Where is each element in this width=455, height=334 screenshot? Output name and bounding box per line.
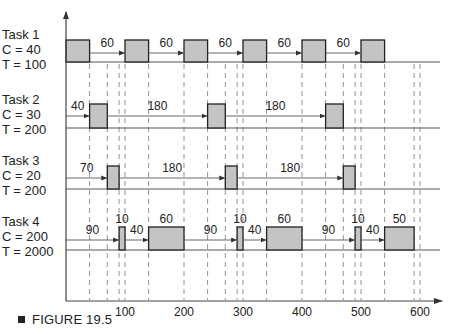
execution-block bbox=[66, 40, 90, 62]
gap-label: 180 bbox=[280, 161, 300, 175]
block-duration-label: 60 bbox=[160, 212, 174, 226]
track-task-1: 6060606060 bbox=[66, 36, 440, 62]
dashed-gridlines bbox=[90, 64, 420, 300]
gap-label: 90 bbox=[322, 223, 336, 237]
gap-label: 40 bbox=[130, 223, 144, 237]
x-tick-label: 300 bbox=[233, 305, 253, 319]
execution-block bbox=[302, 40, 326, 62]
gap-label: 60 bbox=[160, 36, 174, 50]
execution-block bbox=[385, 227, 415, 250]
gap-label: 180 bbox=[147, 99, 167, 113]
execution-block bbox=[119, 227, 125, 250]
x-tick-label: 400 bbox=[292, 305, 312, 319]
execution-block bbox=[343, 166, 355, 189]
gap-label: 60 bbox=[219, 36, 233, 50]
gap-label: 90 bbox=[86, 223, 100, 237]
block-duration-label: 50 bbox=[393, 212, 407, 226]
execution-block bbox=[225, 166, 237, 189]
block-duration-label: 60 bbox=[278, 212, 292, 226]
gap-label: 180 bbox=[265, 99, 285, 113]
figure-caption: FIGURE 19.5 bbox=[18, 312, 112, 327]
block-duration-label: 10 bbox=[233, 212, 247, 226]
x-axis-arrow-icon bbox=[434, 298, 443, 304]
execution-block bbox=[243, 40, 267, 62]
gap-label: 40 bbox=[366, 223, 380, 237]
execution-block bbox=[184, 40, 208, 62]
execution-block bbox=[237, 227, 243, 250]
square-bullet-icon bbox=[18, 316, 25, 323]
gap-label: 180 bbox=[162, 161, 182, 175]
gap-label: 60 bbox=[101, 36, 115, 50]
x-tick-label: 600 bbox=[410, 305, 430, 319]
block-duration-label: 10 bbox=[115, 212, 129, 226]
x-tick-label: 200 bbox=[174, 305, 194, 319]
execution-block bbox=[355, 227, 361, 250]
track-task-2: 40180180 bbox=[66, 99, 440, 128]
task-tracks: 6060606060401801807018018010601060105090… bbox=[66, 36, 440, 250]
y-axis-arrow-icon bbox=[63, 11, 69, 19]
execution-block bbox=[90, 104, 108, 128]
execution-block bbox=[326, 104, 344, 128]
execution-block bbox=[107, 166, 119, 189]
schedule-diagram: 6060606060401801807018018010601060105090… bbox=[0, 0, 455, 334]
execution-block bbox=[149, 227, 184, 250]
x-tick-label: 100 bbox=[115, 305, 135, 319]
execution-block bbox=[267, 227, 302, 250]
execution-block bbox=[361, 40, 385, 62]
x-tick-labels: 100200300400500600 bbox=[115, 305, 430, 319]
gap-label: 70 bbox=[80, 161, 94, 175]
execution-block bbox=[125, 40, 149, 62]
gap-label: 90 bbox=[204, 223, 218, 237]
track-task-3: 70180180 bbox=[66, 161, 440, 189]
caption-text: FIGURE 19.5 bbox=[32, 312, 112, 327]
execution-block bbox=[208, 104, 226, 128]
x-tick-label: 500 bbox=[351, 305, 371, 319]
track-task-4: 106010601050904090409040 bbox=[66, 212, 440, 250]
gap-label: 60 bbox=[337, 36, 351, 50]
gap-label: 40 bbox=[71, 99, 85, 113]
block-duration-label: 10 bbox=[351, 212, 365, 226]
gap-label: 40 bbox=[248, 223, 262, 237]
gap-label: 60 bbox=[278, 36, 292, 50]
